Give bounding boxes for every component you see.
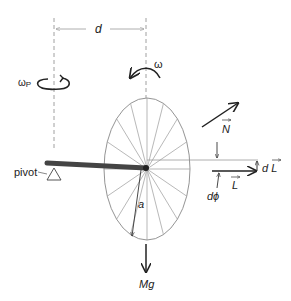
- label-d: d: [95, 22, 102, 36]
- wheel-spoke: [147, 169, 177, 219]
- wheel-spoke: [117, 119, 147, 169]
- label-Mg: Mg: [139, 278, 155, 290]
- label-dphi: dϕ: [207, 190, 219, 202]
- label-pivot: pivot: [14, 166, 37, 178]
- wheel-spoke: [147, 119, 177, 169]
- gyroscope-diagram: d ωP ω pivot N dϕ L dL a Mg: [0, 0, 291, 301]
- pivot-leader-line: [38, 172, 47, 174]
- label-omega-p: ωP: [18, 77, 31, 89]
- dphi-pointer-bottom: [217, 173, 219, 188]
- label-N: N: [222, 123, 230, 135]
- precession-rotation-icon: [38, 75, 70, 89]
- axle-rod: [47, 163, 146, 168]
- wheel-hub: [143, 165, 149, 171]
- torque-vector-N: [202, 103, 238, 127]
- label-L: L: [232, 179, 238, 191]
- pivot-support: [47, 168, 61, 180]
- label-dL: dL: [262, 162, 277, 174]
- label-omega: ω: [154, 58, 163, 70]
- wheel-spoke: [117, 169, 147, 219]
- label-a: a: [138, 198, 144, 210]
